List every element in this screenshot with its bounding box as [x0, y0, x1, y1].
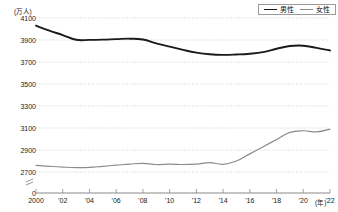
legend-swatch-female [300, 9, 313, 10]
x-tick-label: '08 [138, 197, 147, 204]
chart-legend: 男性 女性 [258, 4, 336, 15]
chart-plot-area [0, 0, 338, 212]
x-tick-label: '20 [299, 197, 308, 204]
x-tick-label: '14 [219, 197, 228, 204]
x-tick-label: 2000 [28, 197, 44, 204]
legend-item-female: 女性 [300, 6, 330, 13]
legend-label-female: 女性 [316, 6, 330, 13]
x-tick-label: '22 [325, 197, 334, 204]
y-axis-break-icon [26, 179, 33, 185]
x-tick-label: '02 [58, 197, 67, 204]
x-tick-label: '18 [272, 197, 281, 204]
x-axis-unit-label: (年) [315, 197, 326, 207]
series-line [36, 129, 330, 168]
legend-swatch-male [264, 9, 277, 10]
x-tick-label: '10 [165, 197, 174, 204]
line-chart: (万人) 410039003700350033003100290027000 2… [0, 0, 338, 212]
x-tick-label: '06 [112, 197, 121, 204]
x-tick-label: '16 [245, 197, 254, 204]
legend-label-male: 男性 [280, 6, 294, 13]
x-tick-label: '12 [192, 197, 201, 204]
series-lines [36, 26, 330, 168]
x-tick-label: '04 [85, 197, 94, 204]
legend-item-male: 男性 [264, 6, 294, 13]
